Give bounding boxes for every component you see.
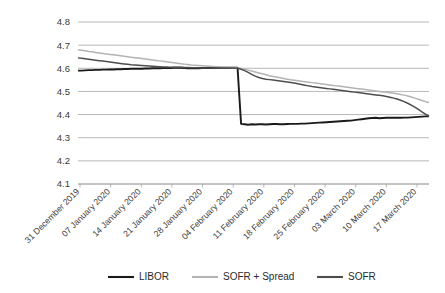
y-axis-tick-label: 4.4 bbox=[57, 109, 70, 120]
gridline-group bbox=[78, 22, 429, 184]
y-axis-tick-label: 4.6 bbox=[57, 63, 70, 74]
x-axis-tick-labels: 31 December 201907 January 202014 Januar… bbox=[23, 186, 419, 245]
chart-legend: LIBORSOFR + SpreadSOFR bbox=[108, 271, 376, 282]
chart-canvas: 4.84.74.64.54.44.34.24.1 31 December 201… bbox=[0, 0, 445, 293]
legend-label-libor: LIBOR bbox=[139, 271, 169, 282]
legend-label-sofr: SOFR bbox=[348, 271, 376, 282]
y-axis-tick-label: 4.3 bbox=[57, 132, 70, 143]
legend-label-sofr-spread: SOFR + Spread bbox=[223, 271, 294, 282]
y-axis-tick-label: 4.1 bbox=[57, 178, 70, 189]
y-axis-tick-label: 4.7 bbox=[57, 40, 70, 51]
series-line-sofr bbox=[78, 58, 429, 117]
y-axis-tick-labels: 4.84.74.64.54.44.34.24.1 bbox=[57, 16, 70, 189]
series-line-libor bbox=[78, 68, 429, 125]
x-axis-tick-marks bbox=[80, 184, 417, 188]
y-axis-tick-label: 4.5 bbox=[57, 86, 70, 97]
x-axis-tick-label: 31 December 2019 bbox=[23, 186, 82, 245]
line-chart: 4.84.74.64.54.44.34.24.1 31 December 201… bbox=[0, 0, 445, 293]
series-group bbox=[78, 50, 429, 125]
y-axis-tick-label: 4.2 bbox=[57, 155, 70, 166]
y-axis-tick-label: 4.8 bbox=[57, 16, 70, 27]
